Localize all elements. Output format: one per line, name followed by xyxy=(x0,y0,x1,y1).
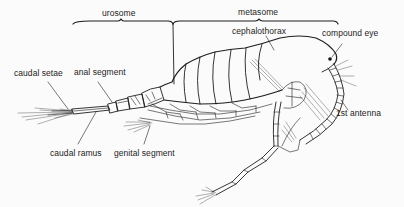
leader-genital-segment xyxy=(144,126,150,144)
urosome-drawing xyxy=(108,87,164,113)
caudal-ramus-label: caudal ramus xyxy=(50,148,102,158)
cephalothorax-label: cephalothorax xyxy=(232,26,286,36)
caudal-setae-drawing xyxy=(18,108,73,124)
caudal-ramus-drawing xyxy=(72,106,110,114)
metasome-bracket xyxy=(173,19,338,24)
urosome-bracket xyxy=(73,19,173,24)
anal-segment-label: anal segment xyxy=(74,67,126,77)
urosome-label: urosome xyxy=(102,8,135,18)
compound-eye-dot xyxy=(328,57,332,61)
first-antenna-label: 1st antenna xyxy=(336,108,381,118)
compound-eye-label: compound eye xyxy=(322,28,378,38)
leader-caudal-setae xyxy=(48,82,68,109)
metasome-drawing xyxy=(160,36,337,104)
leader-cephalothorax xyxy=(266,36,274,50)
mouthparts-drawing xyxy=(250,59,330,120)
genital-segment-label: genital segment xyxy=(114,148,175,158)
metasome-label: metasome xyxy=(238,7,278,17)
copepod-diagram: urosome metasome cephalothorax compound … xyxy=(0,0,404,207)
urosome-metasome-divider xyxy=(173,24,174,84)
leader-anal-segment xyxy=(98,82,112,102)
leader-caudal-ramus xyxy=(78,112,96,144)
swimming-legs-drawing xyxy=(124,103,272,132)
first-antenna-drawing xyxy=(300,60,356,144)
caudal-setae-label: caudal setae xyxy=(14,68,63,78)
